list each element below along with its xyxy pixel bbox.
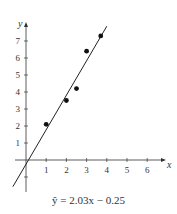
y-axis-label: y <box>17 18 23 29</box>
y-axis-arrow-icon <box>24 22 28 27</box>
y-tick-label: 5 <box>16 70 21 80</box>
x-tick-label: 5 <box>125 165 130 175</box>
x-tick-label: 3 <box>84 165 89 175</box>
data-point <box>74 86 79 91</box>
x-tick-label: 1 <box>44 165 49 175</box>
data-point <box>64 98 69 103</box>
x-tick-label: 4 <box>105 165 110 175</box>
data-point <box>98 34 103 39</box>
x-axis-arrow-icon <box>161 158 166 162</box>
scatter-plot: xy1234561234567 <box>0 0 177 214</box>
y-tick-label: 4 <box>16 87 21 97</box>
y-tick-label: 7 <box>16 36 21 46</box>
regression-line <box>13 26 107 186</box>
x-tick-label: 2 <box>64 165 69 175</box>
y-tick-label: 3 <box>16 104 21 114</box>
y-tick-label: 6 <box>16 53 21 63</box>
data-point <box>44 122 49 127</box>
x-axis-label: x <box>166 159 172 170</box>
y-tick-label: 2 <box>16 121 21 131</box>
data-point <box>84 49 89 54</box>
x-tick-label: 6 <box>145 165 150 175</box>
y-tick-label: 1 <box>16 138 21 148</box>
regression-equation: ŷ = 2.03x − 0.25 <box>0 194 177 206</box>
